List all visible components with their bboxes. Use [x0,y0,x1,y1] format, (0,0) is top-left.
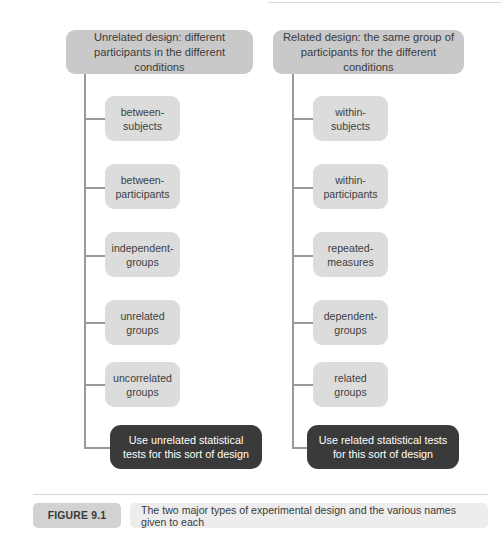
node-between-participants: between-participants [105,164,180,209]
node-uncorrelated-groups: uncorrelated groups [105,362,180,407]
column-header-unrelated: Unrelated design: different participants… [66,30,253,74]
node-within-subjects: within-subjects [313,96,388,141]
connector-stub-unrelated-0 [84,118,106,120]
figure-container: Unrelated design: different participants… [0,0,503,553]
figure-number-badge: FIGURE 9.1 [33,503,121,528]
connector-spine-related [292,74,294,448]
connector-stub-related-1 [292,187,314,189]
connector-stub-unrelated-1 [84,187,106,189]
node-dependent-groups: dependent-groups [313,300,388,345]
connector-stub-unrelated-2 [84,255,106,257]
result-box-unrelated: Use unrelated statistical tests for this… [110,425,262,469]
node-repeated-measures: repeated-measures [313,232,388,277]
node-between-subjects: between-subjects [105,96,180,141]
page-top-rule [268,2,501,3]
connector-stub-unrelated-3 [84,322,106,324]
connector-spine-unrelated [84,74,86,448]
caption-divider [33,494,488,495]
node-independent-groups: independent-groups [105,232,180,277]
connector-stub-related-0 [292,118,314,120]
node-within-participants: within-participants [313,164,388,209]
node-related-groups: related groups [313,362,388,407]
figure-caption: FIGURE 9.1 The two major types of experi… [33,503,488,528]
figure-caption-text: The two major types of experimental desi… [130,503,488,528]
connector-stub-related-3 [292,322,314,324]
result-box-related: Use related statistical tests for this s… [307,425,459,469]
connector-stub-unrelated-result [84,447,111,449]
connector-stub-related-2 [292,255,314,257]
connector-stub-related-4 [292,384,314,386]
node-unrelated-groups: unrelated groups [105,300,180,345]
column-header-related: Related design: the same group of partic… [273,30,464,74]
connector-stub-unrelated-4 [84,384,106,386]
